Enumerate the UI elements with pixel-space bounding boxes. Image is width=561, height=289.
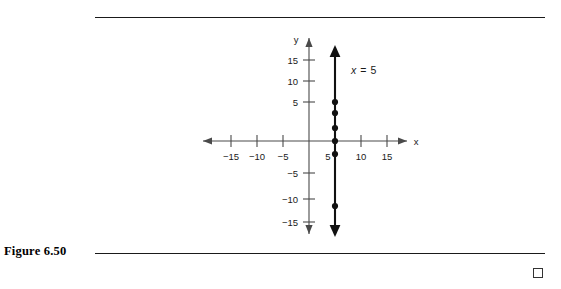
top-horizontal-rule bbox=[95, 17, 545, 18]
y-tick-label--10: −10 bbox=[282, 194, 298, 205]
data-point bbox=[332, 138, 338, 144]
chart-svg: −15 −10 −5 5 10 15 x bbox=[185, 24, 435, 244]
x-tick-label--10: −10 bbox=[249, 151, 265, 162]
y-tick-label--15: −15 bbox=[282, 217, 298, 228]
data-point bbox=[332, 203, 338, 209]
y-axis-group: 15 10 5 −5 −10 −15 y bbox=[282, 34, 315, 234]
x-axis-label: x bbox=[414, 136, 419, 147]
y-tick-label-10: 10 bbox=[287, 76, 298, 87]
qed-square-marker bbox=[533, 268, 543, 278]
equation-variable: x bbox=[350, 64, 357, 76]
data-point bbox=[332, 110, 338, 116]
line-arrow-down bbox=[330, 225, 341, 237]
data-point bbox=[332, 151, 338, 157]
x-axis-arrow-left bbox=[203, 137, 212, 144]
x-axis-group: −15 −10 −5 5 10 15 x bbox=[203, 135, 419, 162]
x-axis-arrow-right bbox=[398, 137, 407, 144]
x-tick-label--15: −15 bbox=[223, 151, 239, 162]
figure-caption: Figure 6.50 bbox=[4, 244, 66, 259]
data-point bbox=[332, 125, 338, 131]
equation-annotation: x=5 bbox=[350, 64, 376, 76]
coordinate-plane-chart: −15 −10 −5 5 10 15 x bbox=[185, 24, 435, 244]
y-tick-label-5: 5 bbox=[293, 97, 298, 108]
data-point bbox=[332, 99, 338, 105]
bottom-horizontal-rule bbox=[95, 253, 545, 254]
line-arrow-up bbox=[330, 45, 341, 57]
y-axis-arrow-up bbox=[305, 38, 312, 47]
figure-page: −15 −10 −5 5 10 15 x bbox=[0, 0, 561, 289]
x-tick-label-15: 15 bbox=[382, 151, 393, 162]
y-axis-label: y bbox=[294, 34, 299, 45]
x-tick-label-10: 10 bbox=[356, 151, 367, 162]
equation-value: 5 bbox=[370, 64, 376, 76]
y-tick-label--5: −5 bbox=[287, 168, 298, 179]
x-tick-label--5: −5 bbox=[278, 151, 289, 162]
y-axis-arrow-down bbox=[305, 225, 312, 234]
x-tick-label-5: 5 bbox=[325, 151, 330, 162]
equation-equals: = bbox=[360, 64, 366, 76]
y-tick-label-15: 15 bbox=[287, 55, 298, 66]
